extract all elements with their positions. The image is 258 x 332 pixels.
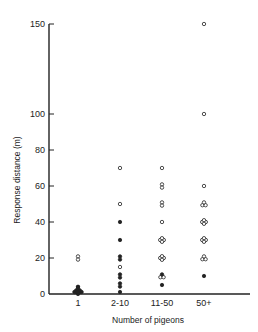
filled-point-marker <box>118 258 121 261</box>
x-tick-label: 2-10 <box>111 298 129 308</box>
open-point-marker <box>160 240 163 243</box>
x-tick-label: 1 <box>75 298 80 308</box>
open-point-marker <box>202 222 205 225</box>
y-tick-label: 100 <box>30 109 45 119</box>
y-axis-title: Response distance (m) <box>12 136 22 224</box>
filled-point-marker <box>202 274 205 277</box>
open-point-marker <box>118 202 121 205</box>
open-point-marker <box>160 220 163 223</box>
filled-point-marker <box>80 290 83 293</box>
open-point-marker <box>160 186 163 189</box>
scatter-chart: 020406080100150 12-1011-5050+ Number of … <box>0 0 258 332</box>
open-point-marker <box>160 255 163 258</box>
x-axis-title: Number of pigeons <box>112 315 184 325</box>
filled-point-marker <box>118 290 121 293</box>
y-tick-label: 0 <box>40 289 45 299</box>
x-tick-label: 50+ <box>196 298 211 308</box>
open-point-marker <box>160 166 163 169</box>
open-point-marker <box>202 237 205 240</box>
y-tick-label: 40 <box>35 217 45 227</box>
filled-point-marker <box>118 220 121 223</box>
open-point-marker <box>202 184 205 187</box>
y-tick-label: 20 <box>35 253 45 263</box>
open-point-marker <box>160 258 163 261</box>
filled-point-marker <box>118 276 121 279</box>
x-ticks: 12-1011-5050+ <box>75 298 211 308</box>
open-point-marker <box>202 240 205 243</box>
open-point-marker <box>160 204 163 207</box>
open-point-marker <box>202 219 205 222</box>
y-tick-label: 80 <box>35 145 45 155</box>
open-point-marker <box>202 201 205 204</box>
axes: 020406080100150 12-1011-5050+ Number of … <box>12 19 250 325</box>
open-point-marker <box>118 166 121 169</box>
filled-point-marker <box>160 283 163 286</box>
open-point-marker <box>118 265 121 268</box>
open-point-marker <box>202 112 205 115</box>
open-point-marker <box>202 22 205 25</box>
x-tick-label: 11-50 <box>151 298 173 308</box>
filled-point-marker <box>118 285 121 288</box>
y-tick-label: 150 <box>30 19 45 29</box>
y-tick-label: 60 <box>35 181 45 191</box>
filled-point-marker <box>160 273 163 276</box>
open-point-marker <box>202 255 205 258</box>
open-point-marker <box>76 258 79 261</box>
open-point-marker <box>160 237 163 240</box>
data-points <box>73 22 208 295</box>
filled-point-marker <box>118 238 121 241</box>
y-ticks: 020406080100150 <box>30 19 54 299</box>
